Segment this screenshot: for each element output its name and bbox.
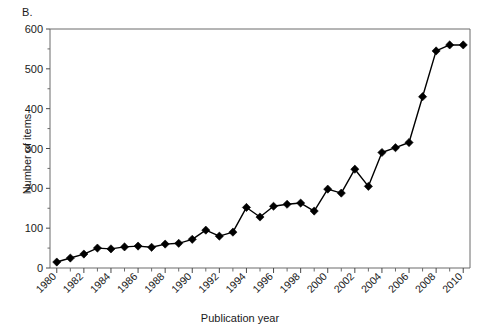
x-axis-tick-label: 2004	[358, 270, 383, 295]
x-axis-tick-label: 1990	[169, 270, 194, 295]
series-line	[57, 45, 463, 262]
data-point-marker	[148, 243, 156, 251]
data-point-marker	[93, 244, 101, 252]
y-axis-title: Number of items	[21, 74, 33, 234]
data-point-marker	[418, 93, 426, 101]
data-series-layer	[53, 41, 468, 266]
panel-label: B.	[22, 6, 33, 18]
data-point-marker	[175, 239, 183, 247]
data-point-marker	[53, 258, 61, 266]
x-axis-tick-label: 2000	[304, 270, 329, 295]
data-point-marker	[66, 254, 74, 262]
y-axis-tick-label: 0	[37, 262, 43, 274]
data-point-marker	[405, 138, 413, 146]
x-axis-tick-label: 1994	[223, 270, 248, 295]
x-axis-tick-label: 1984	[87, 270, 112, 295]
plot-frame	[50, 29, 470, 268]
figure-panel-b: B. Number of items Publication year 0100…	[0, 0, 480, 335]
x-axis-tick-label: 2006	[385, 270, 410, 295]
x-axis-tick-label: 1986	[114, 270, 139, 295]
x-axis-title: Publication year	[0, 312, 480, 324]
x-axis-tick-label: 2002	[331, 270, 356, 295]
data-point-marker	[215, 232, 223, 240]
x-axis-tick-label: 1998	[277, 270, 302, 295]
data-point-marker	[446, 41, 454, 49]
data-point-marker	[107, 245, 115, 253]
data-point-marker	[310, 207, 318, 215]
data-point-marker	[120, 243, 128, 251]
data-point-marker	[378, 148, 386, 156]
data-point-marker	[297, 199, 305, 207]
data-point-marker	[229, 228, 237, 236]
x-axis-tick-label: 1988	[142, 270, 167, 295]
x-axis-tick-label: 1992	[196, 270, 221, 295]
data-point-marker	[80, 250, 88, 258]
y-axis-tick-label: 600	[25, 23, 43, 35]
data-point-marker	[202, 226, 210, 234]
data-point-marker	[324, 185, 332, 193]
x-axis-tick-label: 2008	[413, 270, 438, 295]
data-point-marker	[188, 235, 196, 243]
tick-labels-layer: 0100200300400500600198019821984198619881…	[25, 23, 465, 295]
line-chart-plot: 0100200300400500600198019821984198619881…	[0, 0, 480, 335]
data-point-marker	[432, 47, 440, 55]
data-point-marker	[391, 144, 399, 152]
data-point-marker	[459, 41, 467, 49]
axes-layer	[50, 29, 470, 268]
ticks-layer	[46, 29, 463, 273]
data-point-marker	[337, 189, 345, 197]
x-axis-tick-label: 1982	[60, 270, 85, 295]
data-point-marker	[161, 240, 169, 248]
x-axis-tick-label: 2010	[440, 270, 465, 295]
x-axis-tick-label: 1996	[250, 270, 275, 295]
data-point-marker	[134, 242, 142, 250]
data-point-marker	[283, 200, 291, 208]
